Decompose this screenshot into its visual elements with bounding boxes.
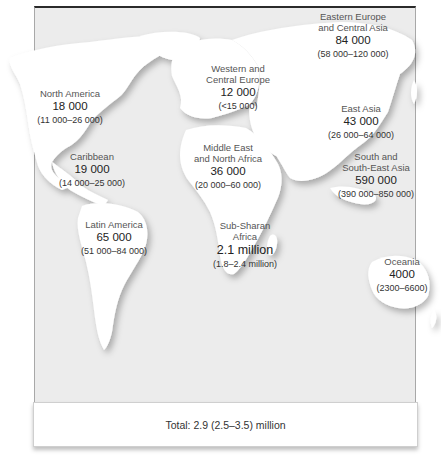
region-value: 84 000 [317,34,388,48]
total-summary-box: Total: 2.9 (2.5–3.5) million [33,402,418,447]
region-name-line1: Eastern Europe [317,11,388,22]
region-value: 43 000 [328,115,394,129]
region-range: (390 000–850 000) [338,189,414,200]
region-value: 19 000 [59,163,125,177]
region-range: (51 000–84 000) [81,246,147,257]
region-value: 590 000 [338,174,414,188]
region-value: 2.1 million [213,243,277,258]
region-label-sub-saharan-africa: Sub-Sharan Africa 2.1 million (1.8–2.4 m… [213,220,277,270]
region-name-line1: South and [338,151,414,162]
region-name: Latin America [81,219,147,230]
region-name-line1: Middle East [194,142,262,153]
region-value: 12 000 [206,86,270,100]
region-name-line1: Sub-Sharan [213,220,277,231]
region-name: East Asia [328,103,394,114]
region-value: 65 000 [81,231,147,245]
region-label-oceania: Oceania 4000 (2300–6600) [376,256,427,293]
region-range: (<15 000) [206,101,270,112]
region-name-line2: South-East Asia [338,162,414,173]
region-name-line2: Africa [213,231,277,242]
region-label-caribbean: Caribbean 19 000 (14 000–25 000) [59,151,125,188]
region-label-western-central-europe: Western and Central Europe 12 000 (<15 0… [206,63,270,112]
region-range: (20 000–60 000) [194,180,262,191]
region-name: Caribbean [59,151,125,162]
region-label-north-america: North America 18 000 (11 000–26 000) [37,88,102,125]
region-name: Oceania [376,256,427,267]
region-name-line2: and Central Asia [317,22,388,33]
region-label-latin-america: Latin America 65 000 (51 000–84 000) [81,219,147,256]
region-range: (58 000–120 000) [317,49,388,60]
region-value: 36 000 [194,165,262,179]
region-name-line1: Western and [206,63,270,74]
region-label-eastern-europe-central-asia: Eastern Europe and Central Asia 84 000 (… [317,11,388,60]
landmass-japan [411,80,417,104]
region-range: (2300–6600) [376,283,427,294]
region-label-south-southeast-asia: South and South-East Asia 590 000 (390 0… [338,151,414,200]
region-name: North America [37,88,102,99]
region-range: (1.8–2.4 million) [213,259,277,270]
region-label-middle-east-north-africa: Middle East and North Africa 36 000 (20 … [194,142,262,191]
region-name-line2: Central Europe [206,74,270,85]
region-value: 18 000 [37,100,102,114]
region-label-east-asia: East Asia 43 000 (26 000–64 000) [328,103,394,140]
total-summary-text: Total: 2.9 (2.5–3.5) million [165,419,285,431]
region-value: 4000 [376,268,427,282]
region-range: (11 000–26 000) [37,115,102,126]
landmass-new-zealand [431,310,436,328]
region-range: (14 000–25 000) [59,178,125,189]
region-range: (26 000–64 000) [328,130,394,141]
region-name-line2: and North Africa [194,153,262,164]
